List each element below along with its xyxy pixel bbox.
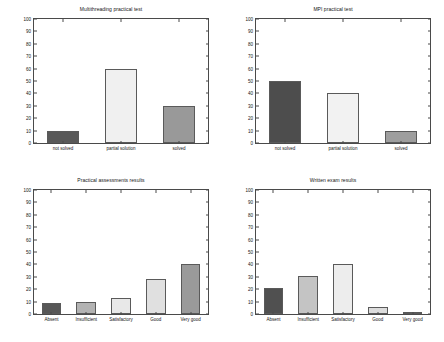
plot-axes: 0102030405060708090100 not solvedpartial… [33, 18, 209, 144]
figure-canvas: Multithreading practical test 0102030405… [0, 0, 444, 342]
y-axis-tick-label: 100 [23, 188, 31, 193]
bar [163, 106, 195, 143]
x-axis-tick-mark [285, 141, 286, 144]
y-axis-tick-label: 30 [248, 103, 253, 108]
bar [333, 264, 352, 314]
y-axis-tick-label: 60 [26, 66, 31, 71]
x-axis-tick-label: Absent [44, 317, 58, 323]
plot-axes: 0102030405060708090100 not solvedpartial… [255, 18, 431, 144]
y-axis-tick-label: 80 [26, 212, 31, 217]
x-axis-tick-label: Insufficient [297, 317, 318, 323]
bar [327, 93, 359, 143]
bar [264, 288, 283, 314]
x-axis-tick-label: Good [150, 317, 161, 323]
x-axis-tick-mark [343, 141, 344, 144]
y-axis-tick-label: 40 [26, 262, 31, 267]
y-axis-tick-label: 60 [26, 237, 31, 242]
y-axis-tick-label: 70 [26, 225, 31, 230]
chart-title: Practical assessments results [0, 177, 222, 184]
bar-series: AbsentInsufficientSatisfactoryGoodVery g… [34, 190, 208, 314]
bar [298, 276, 317, 314]
x-axis-tick-mark [121, 141, 122, 144]
y-axis-tick-label: 40 [26, 91, 31, 96]
x-axis-tick-mark [308, 312, 309, 315]
x-axis-tick-mark [63, 141, 64, 144]
y-axis-tick-label: 0 [250, 312, 253, 317]
x-axis-tick-mark [401, 141, 402, 144]
y-axis-tick-label: 0 [28, 141, 31, 146]
y-axis-tick-label: 50 [26, 79, 31, 84]
bar [181, 264, 200, 314]
x-axis-tick-mark [273, 190, 274, 193]
x-axis-tick-mark [190, 190, 191, 193]
y-axis-tick-label: 20 [26, 287, 31, 292]
y-axis-tick-label: 20 [248, 116, 253, 121]
x-axis-tick-mark [51, 190, 52, 193]
bar [105, 69, 137, 143]
x-axis-tick-mark [63, 19, 64, 22]
y-axis-tick-label: 10 [248, 128, 253, 133]
y-axis-tick-label: 40 [248, 262, 253, 267]
y-axis-tick-label: 0 [250, 141, 253, 146]
y-axis-tick-label: 20 [248, 287, 253, 292]
y-axis-tick-label: 70 [248, 225, 253, 230]
x-axis-tick-mark [273, 312, 274, 315]
chart-title: Written exam results [222, 177, 444, 184]
x-axis-tick-mark [121, 312, 122, 315]
bar [269, 81, 301, 143]
x-axis-tick-mark [179, 141, 180, 144]
x-axis-tick-label: Absent [266, 317, 280, 323]
x-axis-tick-mark [377, 312, 378, 315]
y-axis-tick-label: 60 [248, 66, 253, 71]
y-axis-tick-label: 60 [248, 237, 253, 242]
x-axis-tick-label: Satisfactory [109, 317, 133, 323]
y-axis-tick-label: 40 [248, 91, 253, 96]
y-axis-tick-label: 0 [28, 312, 31, 317]
x-axis-tick-mark [155, 190, 156, 193]
x-axis-tick-label: solved [394, 146, 407, 152]
y-axis-tick-label: 80 [248, 212, 253, 217]
y-axis-tick-label: 10 [26, 128, 31, 133]
x-axis-tick-label: Very good [180, 317, 200, 323]
x-axis-tick-mark [412, 190, 413, 193]
chart-title: Multithreading practical test [0, 6, 222, 13]
y-axis-tick-label: 90 [248, 29, 253, 34]
x-axis-tick-label: not solved [275, 146, 296, 152]
x-axis-tick-label: Insufficient [75, 317, 96, 323]
bar [146, 279, 165, 314]
y-axis-tick-label: 50 [248, 250, 253, 255]
x-axis-tick-label: Good [372, 317, 383, 323]
y-axis-tick-label: 10 [26, 299, 31, 304]
x-axis-tick-mark [308, 190, 309, 193]
x-axis-tick-label: not solved [53, 146, 74, 152]
y-axis-tick-label: 100 [245, 17, 253, 22]
x-axis-tick-mark [285, 19, 286, 22]
y-axis-tick-label: 50 [248, 79, 253, 84]
y-axis-tick-label: 100 [23, 17, 31, 22]
x-axis-tick-mark [401, 19, 402, 22]
plot-axes: 0102030405060708090100 AbsentInsufficien… [255, 189, 431, 315]
x-axis-tick-mark [179, 19, 180, 22]
bar-series: not solvedpartial solutionsolved [256, 19, 430, 143]
y-axis-tick-label: 80 [26, 41, 31, 46]
bar-series: not solvedpartial solutionsolved [34, 19, 208, 143]
x-axis-tick-label: partial solution [328, 146, 357, 152]
x-axis-tick-label: partial solution [106, 146, 135, 152]
x-axis-tick-mark [86, 312, 87, 315]
x-axis-tick-mark [121, 190, 122, 193]
y-axis-tick-label: 10 [248, 299, 253, 304]
chart-panel-mpi-practical-test: MPI practical test 010203040506070809010… [222, 0, 444, 171]
plot-axes: 0102030405060708090100 AbsentInsufficien… [33, 189, 209, 315]
y-axis-tick-label: 20 [26, 116, 31, 121]
y-axis-tick-label: 30 [248, 274, 253, 279]
x-axis-tick-label: Satisfactory [331, 317, 355, 323]
y-axis-tick-label: 90 [26, 29, 31, 34]
x-axis-tick-mark [190, 312, 191, 315]
x-axis-tick-mark [121, 19, 122, 22]
y-axis-tick-label: 70 [248, 54, 253, 59]
x-axis-tick-mark [343, 190, 344, 193]
x-axis-tick-mark [51, 312, 52, 315]
x-axis-tick-mark [377, 190, 378, 193]
bar-series: AbsentInsufficientSatisfactoryGoodVery g… [256, 190, 430, 314]
y-axis-tick-label: 70 [26, 54, 31, 59]
